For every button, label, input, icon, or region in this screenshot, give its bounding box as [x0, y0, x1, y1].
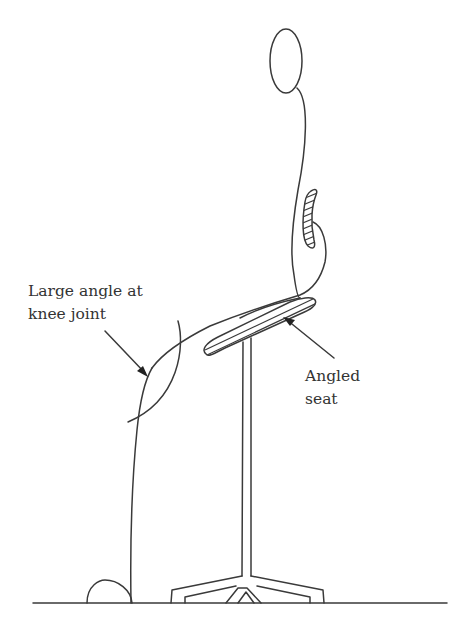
- knee-annotation: Large angle at knee joint: [28, 280, 143, 326]
- body-front-outline: [152, 222, 326, 368]
- stool-base-center: [226, 588, 261, 603]
- angled-seat: [204, 298, 316, 356]
- foot: [87, 580, 132, 603]
- stool-post-left: [242, 342, 243, 576]
- body-back-outline: [292, 88, 305, 298]
- figure-canvas: Large angle at knee joint Angled seat: [0, 0, 469, 631]
- backrest-pad: [303, 190, 317, 248]
- seat-annotation: Angled seat: [305, 365, 360, 411]
- knee-annotation-line1: Large angle at: [28, 280, 143, 303]
- seat-annotation-line2: seat: [305, 388, 360, 411]
- head: [270, 29, 302, 93]
- knee-annotation-line2: knee joint: [28, 303, 143, 326]
- knee-arrow-head: [137, 366, 148, 377]
- seat-hatching: [205, 298, 317, 355]
- knee-arc: [128, 321, 181, 422]
- knee-arrow-line: [105, 331, 145, 373]
- seat-arrow-line: [287, 320, 334, 358]
- seat-annotation-line1: Angled: [305, 365, 360, 388]
- lower-leg: [131, 368, 152, 603]
